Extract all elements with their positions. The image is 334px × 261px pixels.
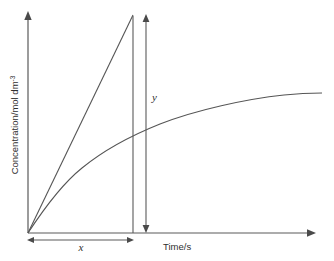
concentration-curve (28, 93, 322, 233)
x-axis-arrowhead-icon (307, 229, 316, 236)
chart-figure: x y Concentration/mol dm-3 Time/s (0, 0, 334, 261)
x-interval-label: x (78, 241, 84, 253)
rate-of-reaction-chart: x y Concentration/mol dm-3 Time/s (0, 0, 334, 261)
y-interval-top-arrowhead-icon (143, 14, 150, 22)
y-axis-arrowhead-icon (24, 11, 31, 20)
y-axis-title-main: Concentration/mol dm (9, 81, 20, 174)
x-axis (28, 229, 316, 236)
x-interval-left-arrowhead-icon (27, 237, 34, 243)
y-axis-title-superscript: -3 (9, 75, 16, 81)
x-axis-title: Time/s (163, 241, 191, 252)
y-axis (24, 11, 31, 233)
initial-rate-tangent-line (28, 15, 133, 233)
x-interval-right-arrowhead-icon (127, 237, 134, 243)
y-interval-bottom-arrowhead-icon (143, 225, 150, 233)
y-interval-annotation: y (143, 14, 157, 233)
y-interval-label: y (151, 91, 157, 103)
y-axis-title: Concentration/mol dm-3 (9, 75, 21, 174)
x-interval-annotation: x (27, 237, 134, 253)
